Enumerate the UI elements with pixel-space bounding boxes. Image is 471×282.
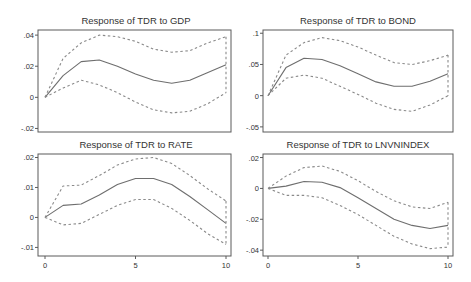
y-tick-label: .04 bbox=[24, 31, 34, 40]
y-tick-label: .01 bbox=[24, 183, 34, 192]
x-tick-label: 0 bbox=[266, 261, 270, 270]
y-tick-label: -.05 bbox=[246, 123, 259, 132]
panel-title: Response of TDR to LNVNINDEX bbox=[287, 139, 431, 150]
x-tick-label: 5 bbox=[133, 261, 137, 270]
series-upper-ci bbox=[45, 35, 226, 97]
series-response bbox=[45, 60, 226, 97]
y-tick-label: .02 bbox=[24, 153, 34, 162]
y-tick-label: 0 bbox=[255, 184, 259, 193]
y-tick-label: -.02 bbox=[21, 124, 34, 133]
y-tick-label: 0 bbox=[255, 92, 259, 101]
panel-rate: Response of TDR to RATE .02.010-.010510 bbox=[21, 139, 231, 270]
y-tick-label: 0 bbox=[30, 93, 34, 102]
series-upper-ci bbox=[268, 38, 448, 96]
irf-chart-canvas: Response of TDR to GDP .04.020-.02 Respo… bbox=[0, 0, 471, 282]
x-tick-label: 10 bbox=[444, 261, 452, 270]
panel-title: Response of TDR to BOND bbox=[300, 15, 416, 26]
y-tick-label: .1 bbox=[253, 29, 259, 38]
irf-figure: Response of TDR to GDP .04.020-.02 Respo… bbox=[0, 0, 471, 282]
y-tick-label: -.01 bbox=[21, 243, 34, 252]
series-lower-ci bbox=[45, 200, 226, 245]
plot-frame bbox=[263, 30, 453, 132]
panel-gdp: Response of TDR to GDP .04.020-.02 bbox=[21, 15, 231, 133]
y-tick-label: .02 bbox=[24, 62, 34, 71]
y-tick-label: .05 bbox=[249, 60, 259, 69]
y-tick-label: .02 bbox=[249, 154, 259, 163]
panel-title: Response of TDR to GDP bbox=[81, 15, 190, 26]
series-upper-ci bbox=[268, 166, 448, 209]
x-tick-label: 5 bbox=[356, 261, 360, 270]
series-lower-ci bbox=[268, 75, 448, 111]
y-tick-label: -.02 bbox=[246, 215, 259, 224]
series-upper-ci bbox=[45, 158, 226, 218]
x-tick-label: 0 bbox=[43, 261, 47, 270]
panel-lnvnindex: Response of TDR to LNVNINDEX .020-.02-.0… bbox=[246, 139, 453, 270]
panel-bond: Response of TDR to BOND .1.050-.05 bbox=[246, 15, 453, 132]
series-response bbox=[268, 182, 448, 229]
plot-frame bbox=[263, 154, 453, 256]
series-lower-ci bbox=[45, 80, 226, 113]
y-tick-label: -.04 bbox=[246, 246, 259, 255]
series-response bbox=[268, 58, 448, 95]
y-tick-label: 0 bbox=[30, 213, 34, 222]
plot-frame bbox=[38, 30, 231, 132]
x-tick-label: 10 bbox=[222, 261, 230, 270]
panel-title: Response of TDR to RATE bbox=[79, 139, 192, 150]
